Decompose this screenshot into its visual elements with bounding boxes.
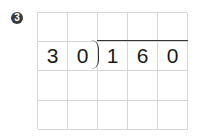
grid-cell[interactable] [68,13,98,42]
division-bracket [91,40,99,69]
grid-cell[interactable] [158,71,188,101]
grid-cell[interactable] [98,13,128,42]
grid-cell[interactable] [68,71,98,101]
divisor-digit: 3 [38,42,68,71]
grid-cell[interactable] [128,13,158,42]
division-overline [97,40,188,41]
grid-cell[interactable] [98,101,128,130]
grid-cell[interactable] [68,101,98,130]
grid-cell[interactable] [38,13,68,42]
grid-cell[interactable] [128,71,158,101]
dividend-digit: 0 [158,42,188,71]
problem-number-badge: 3 [11,12,23,24]
dividend-digit: 6 [128,42,158,71]
dividend-digit: 1 [98,42,128,71]
grid-cell[interactable] [158,13,188,42]
grid-cell[interactable] [158,101,188,130]
grid-cell[interactable] [128,101,158,130]
division-grid: 3 0 1 6 0 [37,12,187,129]
grid-cell[interactable] [38,71,68,101]
grid-cell[interactable] [98,71,128,101]
grid-cell[interactable] [38,101,68,130]
